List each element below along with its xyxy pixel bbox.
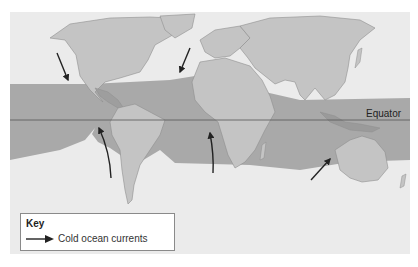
key-title: Key [26,218,44,229]
map-key: Key Cold ocean currents [20,213,175,251]
key-item: Cold ocean currents [26,233,148,244]
key-item-label: Cold ocean currents [58,233,148,244]
arrow-icon [26,235,54,243]
equator-label: Equator [366,108,401,119]
